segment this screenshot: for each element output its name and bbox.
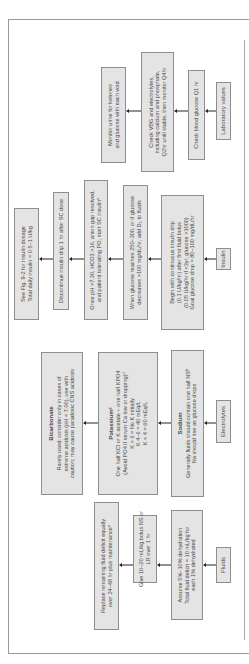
insulin-arrow-1 [204, 257, 216, 261]
electrolytes-arrow-1 [204, 421, 216, 425]
insulin-arrow-2 [148, 257, 161, 261]
lab-arrow-3 [126, 109, 141, 113]
arrows-layer [0, 0, 249, 664]
electrolytes-arrow-2 [158, 421, 171, 425]
insulin-arrow-4 [69, 257, 84, 261]
lab-arrow-1 [205, 109, 216, 113]
flowchart: Fluids Assume 5%–10% dehydrationTotal fl… [0, 0, 249, 664]
fluids-arrow-3 [119, 563, 133, 567]
insulin-arrow-5 [39, 257, 53, 261]
lab-arrow-2 [174, 109, 188, 113]
fluids-arrow-1 [203, 563, 216, 567]
fluids-arrow-2 [157, 563, 171, 567]
electrolytes-arrow-3 [83, 421, 98, 425]
insulin-arrow-3 [108, 257, 123, 261]
